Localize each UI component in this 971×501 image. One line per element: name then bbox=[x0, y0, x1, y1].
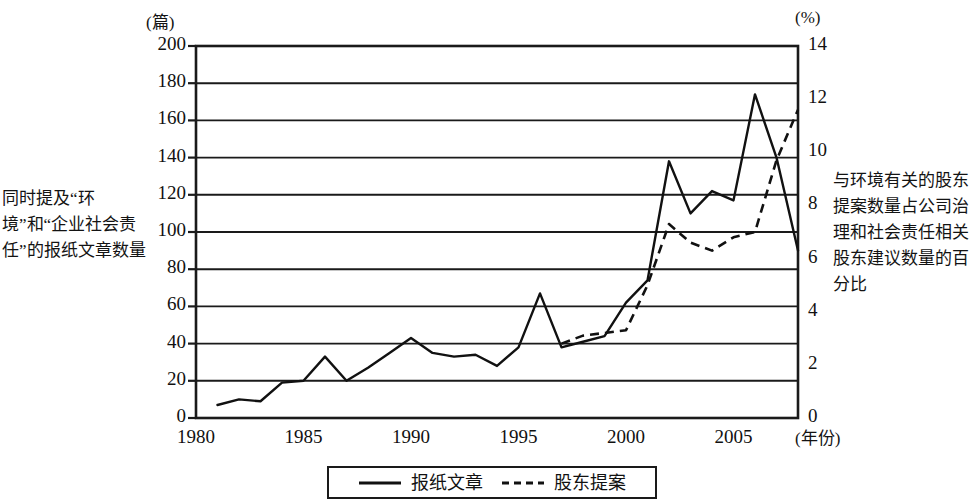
legend-solid-line-icon bbox=[358, 477, 402, 489]
legend-item-newspaper-articles: 报纸文章 bbox=[358, 474, 483, 492]
gridlines bbox=[196, 83, 798, 381]
legend-label-shareholder-proposals: 股东提案 bbox=[554, 474, 626, 492]
legend-dashed-line-icon bbox=[501, 477, 545, 489]
legend-label-newspaper-articles: 报纸文章 bbox=[411, 474, 483, 492]
series-line-shareholder-proposals bbox=[562, 110, 799, 344]
chart-legend: 报纸文章 股东提案 bbox=[327, 466, 657, 499]
plot-area bbox=[0, 0, 971, 501]
legend-item-shareholder-proposals: 股东提案 bbox=[501, 474, 626, 492]
chart-figure: 同时提及“环境”和“企业社会责任”的报纸文章数量 与环境有关的股东提案数量占公司… bbox=[0, 0, 971, 501]
